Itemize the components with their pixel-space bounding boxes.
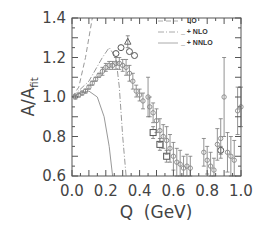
curve-nlo bbox=[72, 48, 126, 176]
y-tick-label: 1.4 bbox=[42, 9, 66, 27]
svg-text:A/Afit: A/Afit bbox=[18, 77, 40, 116]
legend-label: LO bbox=[187, 17, 197, 24]
x-tick-label: 0.4 bbox=[128, 182, 152, 200]
x-tick-label: 0.8 bbox=[195, 182, 219, 200]
x-tick-label: 0.6 bbox=[161, 182, 185, 200]
curve-nnlo bbox=[72, 91, 113, 176]
y-tick-label: 0.6 bbox=[42, 167, 66, 185]
x-tick-label: 0.2 bbox=[94, 182, 118, 200]
chart: 0.00.20.40.60.81.0 1.41.21.00.80.6 LO_ +… bbox=[0, 0, 262, 237]
y-axis-title: A/Afit bbox=[18, 77, 40, 116]
legend-label: _ + NNLO bbox=[180, 39, 213, 46]
x-tick-labels: 0.00.20.40.60.81.0 bbox=[60, 182, 253, 200]
y-tick-label: 1.2 bbox=[42, 49, 66, 67]
y-tick-label: 1.0 bbox=[42, 88, 66, 106]
y-tick-label: 0.8 bbox=[42, 128, 66, 146]
data-point bbox=[113, 51, 119, 57]
legend: LO_ + NLO_ + NNLO bbox=[158, 17, 213, 46]
data-point bbox=[132, 53, 138, 59]
y-axis-title-sub: fit bbox=[29, 77, 40, 87]
legend-label: _ + NLO bbox=[180, 28, 208, 35]
y-axis-title-main: A/A bbox=[18, 87, 38, 116]
data-points bbox=[73, 36, 243, 176]
data-point bbox=[118, 45, 124, 51]
x-axis-title: Q (GeV) bbox=[120, 202, 193, 222]
x-tick-label: 1.0 bbox=[229, 182, 253, 200]
y-tick-labels: 1.41.21.00.80.6 bbox=[42, 9, 66, 185]
